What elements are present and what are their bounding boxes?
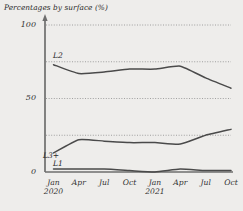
x-tick-month: Jan	[149, 178, 161, 187]
x-tick-month: Apr	[173, 178, 187, 187]
x-tick-month: Oct	[123, 178, 137, 187]
y-tick-label-0: 0	[12, 167, 36, 176]
y-tick-label-100: 100	[12, 20, 36, 29]
chart-container: Percentages by surface (%) 050100 Jan202…	[0, 0, 243, 211]
x-tick-month: Apr	[72, 178, 86, 187]
x-tick-year: 2020	[39, 187, 69, 196]
x-tick-label-7: Oct	[216, 178, 243, 187]
x-tick-month: Jul	[200, 178, 210, 187]
axes	[42, 14, 233, 172]
x-tick-month: Oct	[224, 178, 238, 187]
data-series	[54, 65, 232, 172]
series-label-l2: L2	[53, 51, 63, 60]
x-tick-month: Jan	[47, 178, 59, 187]
y-tick-label-50: 50	[12, 93, 36, 102]
series-line-l2	[54, 65, 232, 89]
x-tick-year: 2021	[140, 187, 170, 196]
series-line-l3plus	[54, 129, 232, 153]
gridlines	[46, 25, 231, 135]
x-tick-month: Jul	[99, 178, 109, 187]
y-axis-arrow-icon	[42, 14, 47, 21]
series-label-l1: L1	[53, 159, 63, 168]
